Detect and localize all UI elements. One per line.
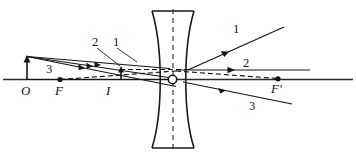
label-focal-point-left: F bbox=[55, 84, 63, 97]
focal-point-left-marker bbox=[57, 77, 62, 82]
object-arrow bbox=[24, 55, 31, 80]
label-ray-3-right: 3 bbox=[249, 100, 255, 113]
ray-1-refracted-arrowhead bbox=[221, 51, 229, 57]
label-focal-point-right: F' bbox=[271, 82, 282, 95]
ray-2-refracted-arrowhead bbox=[228, 67, 236, 73]
label-ray-2-left: 2 bbox=[92, 36, 98, 49]
image-arrow bbox=[118, 66, 124, 80]
diagram-canvas bbox=[0, 0, 356, 162]
label-ray-3-left: 3 bbox=[46, 63, 52, 76]
label-image-point: I bbox=[106, 84, 110, 97]
label-ray-2-right: 2 bbox=[243, 57, 249, 70]
ray-3-refracted-arrowhead bbox=[218, 88, 226, 94]
virtual-ray-focal-construction bbox=[60, 71, 176, 80]
virtual-ray-right-extension bbox=[176, 71, 278, 79]
label-ray-1-right: 1 bbox=[233, 23, 239, 36]
optics-ray-diagram: O F I F' 1 2 3 1 2 3 bbox=[0, 0, 356, 162]
optical-center-marker bbox=[168, 75, 176, 83]
label-ray-1-left: 1 bbox=[113, 36, 119, 49]
label-object-point: O bbox=[21, 84, 30, 97]
label-1-leader bbox=[117, 48, 137, 62]
